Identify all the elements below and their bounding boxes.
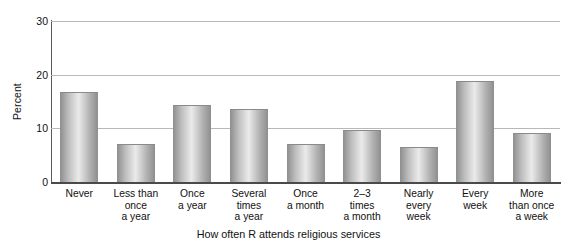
- bar: [117, 144, 155, 182]
- x-axis-line: [51, 182, 561, 184]
- category-label: Every week: [447, 188, 504, 211]
- bar-chart: Percent 0102030 NeverLess than once a ye…: [0, 0, 577, 246]
- y-tick-label-30: 30: [24, 15, 48, 27]
- x-axis-title: How often R attends religious services: [0, 228, 577, 240]
- category-label: Nearly every week: [390, 188, 447, 223]
- category-label: Never: [51, 188, 108, 200]
- category-label: Once a year: [164, 188, 221, 211]
- category-label: 2–3 times a month: [334, 188, 391, 223]
- bar: [173, 105, 211, 182]
- bar: [60, 92, 98, 182]
- gridline-20: [51, 75, 560, 76]
- category-label: Less than once a year: [108, 188, 165, 223]
- category-label: More than once a week: [503, 188, 560, 223]
- bar: [343, 130, 381, 182]
- bar: [400, 147, 438, 182]
- gridline-30: [51, 21, 560, 22]
- bar: [456, 81, 494, 182]
- bar: [513, 133, 551, 182]
- y-tick-label-20: 20: [24, 69, 48, 81]
- plot-area: [51, 21, 560, 182]
- bar: [230, 109, 268, 182]
- category-label: Once a month: [277, 188, 334, 211]
- bar: [287, 144, 325, 182]
- category-label: Several times a year: [221, 188, 278, 223]
- y-axis-tick-labels: 0102030: [18, 0, 48, 246]
- y-tick-label-0: 0: [24, 176, 48, 188]
- y-tick-label-10: 10: [24, 122, 48, 134]
